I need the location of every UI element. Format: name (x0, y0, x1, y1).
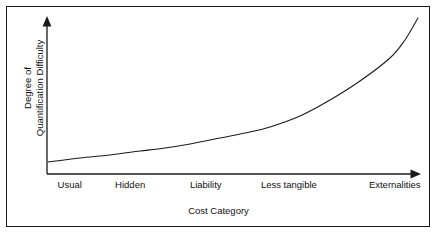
chart-plot-area (0, 0, 437, 234)
y-axis-arrowhead (43, 16, 52, 27)
data-curve (48, 18, 418, 162)
x-tick-label-usual: Usual (58, 179, 82, 190)
x-axis-title: Cost Category (0, 205, 437, 216)
x-tick-label-hidden: Hidden (115, 179, 145, 190)
x-tick-label-liability: Liability (190, 179, 222, 190)
x-tick-label-externalities: Externalities (369, 179, 421, 190)
x-axis-tick-labels: Usual Hidden Liability Less tangible Ext… (47, 179, 425, 193)
figure-container: Degree of Quantification Difficulty Usua… (0, 0, 437, 234)
x-tick-label-less-tangible: Less tangible (261, 179, 317, 190)
x-axis-arrowhead (411, 169, 422, 178)
